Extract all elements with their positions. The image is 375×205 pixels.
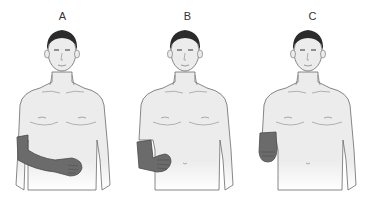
body-illustration [125, 0, 250, 205]
body-illustration [0, 0, 125, 205]
figure-a: A [0, 0, 125, 205]
body-illustration [250, 0, 375, 205]
figure-b: B [125, 0, 250, 205]
figure-c: C [250, 0, 375, 205]
